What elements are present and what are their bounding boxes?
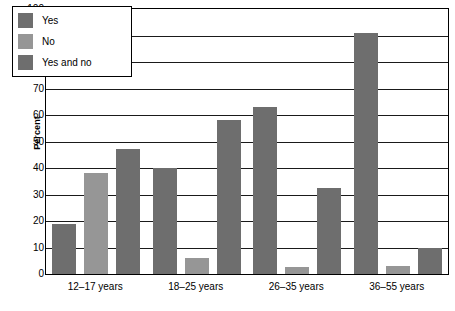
bar [84,173,108,274]
x-tick-label: 18–25 years [168,281,223,292]
legend-label: No [42,36,55,47]
y-tick-label: 70 [10,82,44,93]
y-tick-label: 50 [10,135,44,146]
y-tick-label: 60 [10,109,44,120]
y-tick-label: 0 [10,268,44,279]
legend-label: Yes [42,15,58,26]
bar [253,107,277,274]
x-tick-label: 12–17 years [68,281,123,292]
legend-swatch-icon [18,34,33,49]
bar [317,188,341,274]
bar [52,224,76,274]
y-tick-label: 10 [10,241,44,252]
bar [116,149,140,274]
legend-swatch-icon [18,55,33,70]
bar [418,248,442,275]
bar-chart: Percent 1009080706050403020100 12–17 yea… [0,0,455,311]
bar [217,120,241,274]
bar [386,266,410,274]
bar [285,267,309,274]
y-tick-label: 30 [10,188,44,199]
legend-swatch-icon [18,13,33,28]
y-tick-label: 20 [10,215,44,226]
bar [185,258,209,274]
legend-item: Yes [18,10,121,31]
chart-legend: YesNoYes and no [12,6,132,77]
bar [153,168,177,274]
x-tick-label: 26–35 years [269,281,324,292]
legend-item: Yes and no [18,52,121,73]
legend-label: Yes and no [42,57,92,68]
bar [354,33,378,274]
legend-item: No [18,31,121,52]
x-tick-label: 36–55 years [369,281,424,292]
y-tick-label: 40 [10,162,44,173]
